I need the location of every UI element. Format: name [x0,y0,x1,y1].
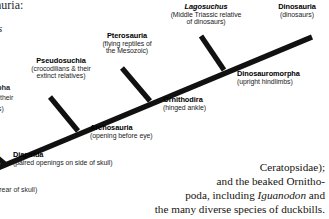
book-body-text: Ceratopsidae); and the beaked Ornitho- p… [0,0,329,219]
body-text-line-4: the many diverse species of duckbills. [155,202,325,216]
cladogram-figure: auria: s rpha their s) in rear of skull)… [0,0,329,219]
body-text-line-2: and the beaked Ornitho- [217,174,325,188]
body-text-line-3: poda, including Iguanodon and [185,188,325,202]
body-text-genus-iguanodon: Iguanodon [258,189,306,201]
body-text-line-3-pre: poda, including [185,189,257,201]
body-text-line-3-post: and [306,189,325,201]
body-text-line-1: Ceratopsidae); [260,160,325,174]
